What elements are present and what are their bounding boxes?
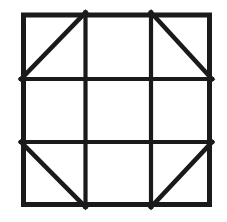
outer-square-fill [21, 13, 212, 208]
nine-patch-grid-figure [0, 0, 227, 222]
figure-canvas: Nine-patch square grid with corner diago… [0, 0, 227, 222]
